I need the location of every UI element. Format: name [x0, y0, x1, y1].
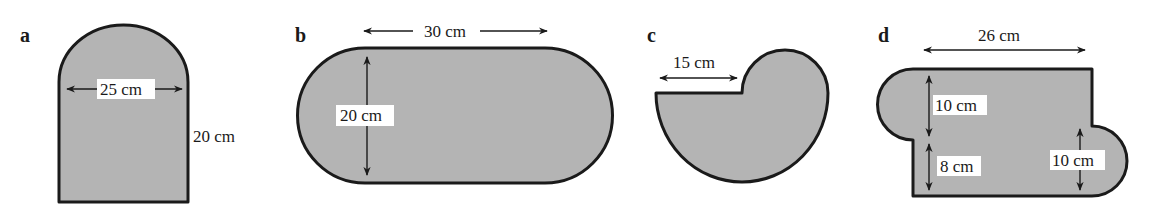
- figure-d-right-semicircle-label: 10 cm: [1052, 151, 1094, 170]
- figure-d: d 26 cm 10 cm 8 cm 10 cm: [878, 24, 1128, 196]
- figure-c: c 15 cm: [647, 24, 828, 182]
- figure-d-shape: [878, 69, 1128, 196]
- figure-d-width-label: 26 cm: [978, 26, 1020, 45]
- figure-a-width-label: 25 cm: [100, 80, 142, 99]
- figure-canvas: a 25 cm 20 cm b 30 cm 20 cm c 15 cm d 26…: [0, 0, 1149, 219]
- figure-b: b 30 cm 20 cm: [295, 22, 613, 183]
- figure-a: a 25 cm 20 cm: [20, 24, 235, 202]
- figure-c-letter: c: [647, 24, 656, 46]
- figure-b-length-label: 30 cm: [424, 22, 466, 41]
- figure-a-letter: a: [20, 24, 30, 46]
- figure-d-left-semicircle-label: 10 cm: [935, 96, 977, 115]
- figure-c-radius-label: 15 cm: [673, 53, 715, 72]
- figure-b-height-label: 20 cm: [340, 106, 382, 125]
- figure-d-left-lower-label: 8 cm: [940, 157, 974, 176]
- figure-b-letter: b: [295, 24, 306, 46]
- figure-d-letter: d: [878, 24, 889, 46]
- figure-a-shape: [59, 25, 188, 202]
- figure-a-height-label: 20 cm: [193, 127, 235, 146]
